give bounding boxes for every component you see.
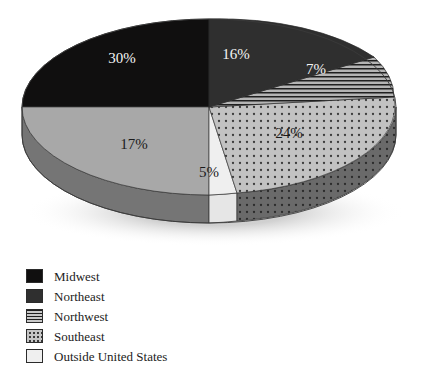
legend-item-midwest: Midwest bbox=[26, 266, 286, 286]
legend-item-outside-united-states: Outside United States bbox=[26, 346, 286, 366]
pie-chart-plot: 30% 16% 7% 24% 17% 5% bbox=[0, 0, 421, 250]
legend-item-northeast: Northeast bbox=[26, 286, 286, 306]
legend-swatch-southeast-icon bbox=[26, 329, 43, 343]
legend-label-southeast: Southeast bbox=[54, 330, 105, 343]
legend-swatch-midwest-icon bbox=[26, 269, 43, 283]
legend-swatch-outside-us-icon bbox=[26, 349, 43, 363]
pie-chart-svg: 30% 16% 7% 24% 17% 5% bbox=[0, 0, 421, 250]
legend-label-midwest: Midwest bbox=[54, 270, 100, 283]
legend-item-southeast: Southeast bbox=[26, 326, 286, 346]
side-wall-outside-us bbox=[209, 193, 237, 223]
legend-swatch-northwest-icon bbox=[26, 309, 43, 323]
pie-label-northeast: 16% bbox=[222, 46, 250, 62]
pie-label-southeast: 24% bbox=[275, 125, 303, 141]
pie-label-midwest: 30% bbox=[108, 50, 136, 66]
legend-label-outside-us: Outside United States bbox=[54, 350, 167, 363]
pie-label-northwest: 7% bbox=[306, 61, 326, 77]
pie-label-outside-us: 5% bbox=[199, 164, 219, 180]
pie-chart-figure: 30% 16% 7% 24% 17% 5% Midwest Northeast … bbox=[0, 0, 421, 376]
chart-legend: Midwest Northeast Northwest Southeast Ou… bbox=[26, 266, 286, 366]
legend-label-northeast: Northeast bbox=[54, 290, 105, 303]
legend-item-northwest: Northwest bbox=[26, 306, 286, 326]
legend-swatch-northeast-icon bbox=[26, 289, 43, 303]
legend-label-northwest: Northwest bbox=[54, 310, 108, 323]
pie-label-left-gray: 17% bbox=[120, 136, 148, 152]
